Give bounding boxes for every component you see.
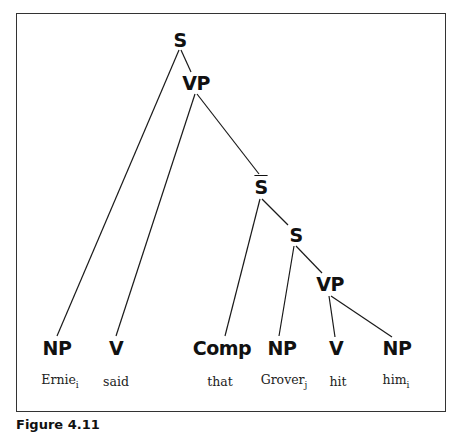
index-subscript: j [305, 380, 308, 390]
node-s_top: S [173, 29, 186, 51]
tree-edge [57, 50, 179, 336]
word-that: that [207, 374, 233, 389]
tree-edge [279, 246, 294, 336]
node-vp_top: VP [182, 72, 210, 94]
index-subscript: i [407, 380, 410, 390]
index-subscript: i [76, 380, 79, 390]
node-v1: V [109, 337, 123, 359]
tree-edge [296, 246, 322, 273]
word-grover: Groverj [261, 372, 308, 390]
tree-edge [262, 199, 288, 225]
word-ernie: Erniei [41, 372, 78, 390]
node-s_low: S [289, 224, 302, 246]
word-hit: hit [329, 374, 346, 389]
node-np1: NP [43, 337, 72, 359]
node-np3: NP [383, 337, 412, 359]
figure-caption: Figure 4.11 [16, 417, 100, 432]
node-np2: NP [268, 337, 297, 359]
node-vp_low: VP [316, 273, 344, 295]
tree-edge [225, 199, 260, 336]
tree-edge [331, 296, 392, 337]
tree-edge [116, 94, 195, 336]
node-sbar: S [254, 176, 267, 198]
node-v2: V [329, 337, 343, 359]
tree-edge [197, 94, 259, 174]
word-said: said [103, 374, 129, 389]
tree-edge [181, 50, 191, 72]
tree-edge [329, 296, 335, 337]
node-comp: Comp [193, 337, 251, 359]
word-him: himi [383, 372, 410, 390]
